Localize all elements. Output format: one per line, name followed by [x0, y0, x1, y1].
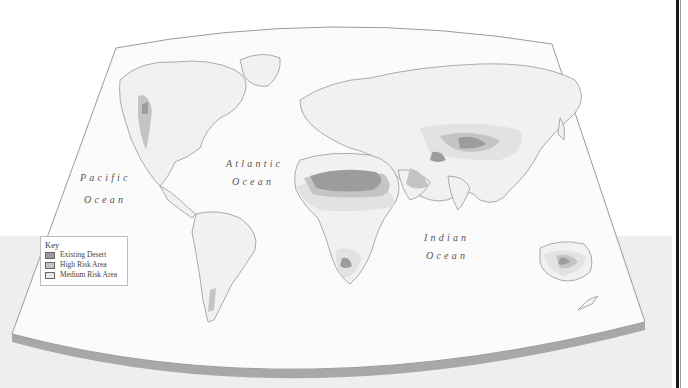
key-item-existing-desert: Existing Desert	[45, 250, 123, 260]
indian-ocean-label: Indian	[424, 232, 469, 243]
indian-ocean-label-2: Ocean	[426, 250, 468, 261]
atlantic-ocean-label: Atlantic	[226, 158, 283, 169]
pacific-ocean-label-2: Ocean	[84, 194, 126, 205]
key-label: High Risk Area	[60, 260, 107, 270]
indian-line2: Ocean	[426, 250, 468, 261]
key-label: Medium Risk Area	[60, 270, 117, 280]
map-key: Key Existing Desert High Risk Area Mediu…	[40, 236, 128, 286]
atlantic-line2: Ocean	[232, 176, 274, 187]
high-risk-swatch	[45, 262, 55, 269]
pacific-line1: Pacific	[80, 172, 131, 183]
key-title: Key	[45, 240, 123, 250]
atlantic-line1: Atlantic	[226, 158, 283, 169]
pacific-ocean-label: Pacific	[80, 172, 131, 183]
key-item-high-risk: High Risk Area	[45, 260, 123, 270]
indian-line1: Indian	[424, 232, 469, 243]
existing-desert-swatch	[45, 252, 55, 259]
key-item-medium-risk: Medium Risk Area	[45, 270, 123, 280]
medium-risk-swatch	[45, 272, 55, 279]
atlantic-ocean-label-2: Ocean	[232, 176, 274, 187]
pacific-line2: Ocean	[84, 194, 126, 205]
key-label: Existing Desert	[60, 250, 106, 260]
